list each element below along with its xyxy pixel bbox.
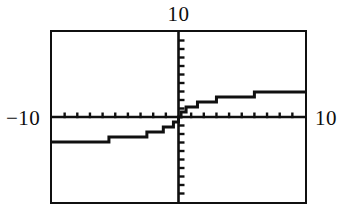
graphing-calculator-screenshot: 10 −10 10 bbox=[0, 0, 343, 220]
plot-canvas bbox=[52, 32, 305, 202]
y-axis-max-label: 10 bbox=[7, 4, 343, 25]
plot-viewport bbox=[50, 30, 307, 204]
x-axis-max-label: 10 bbox=[315, 108, 337, 129]
x-axis-min-label: −10 bbox=[6, 108, 40, 129]
